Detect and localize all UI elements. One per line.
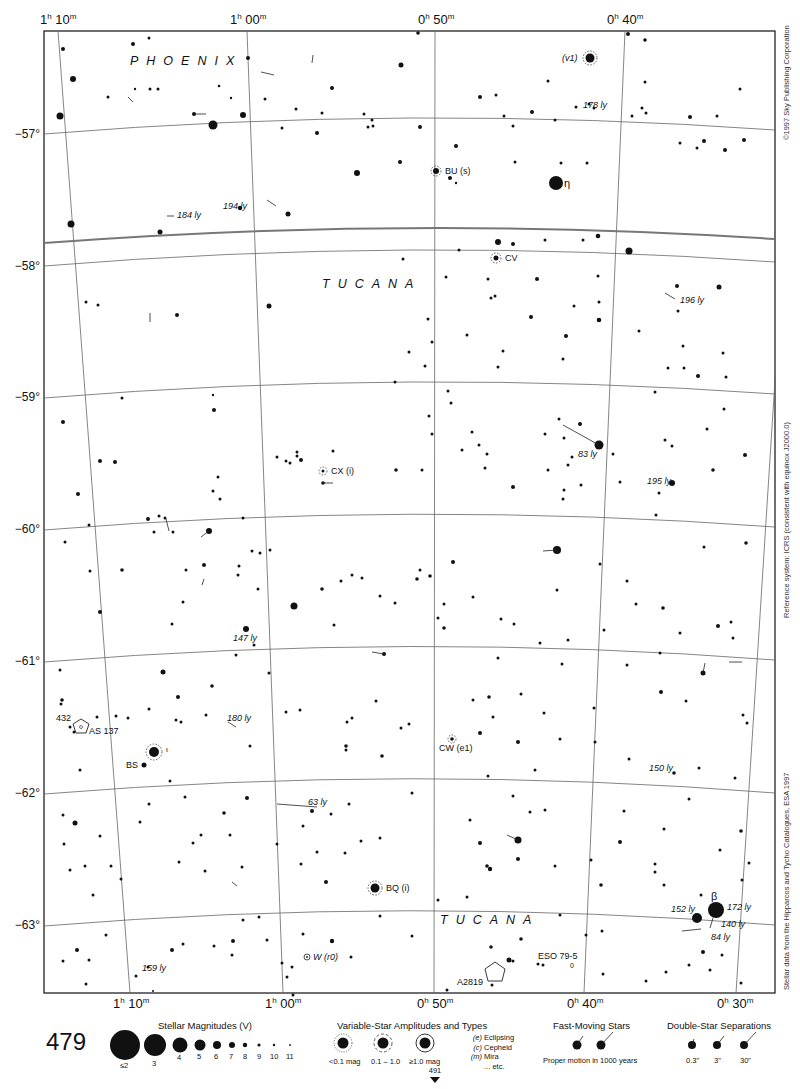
chart-frame: [44, 31, 775, 993]
ra-label-1h10m-top: 1h 10m: [40, 12, 76, 27]
ra-label-0h40m-top: 0h 40m: [607, 12, 643, 27]
dec-grid-lines: [44, 118, 775, 926]
ra-label-0h40m-bottom: 0h 40m: [567, 996, 603, 1011]
constellation-boundary: [44, 228, 775, 243]
ra-label-0h50m-top: 0h 50m: [418, 12, 454, 27]
distance-172: 172 ly: [727, 902, 751, 912]
label-cw: CW (e1): [439, 743, 473, 753]
constellation-label-phoenix: PHOENIX: [130, 54, 242, 68]
distance-84: 84 ly: [711, 932, 730, 942]
mag-label-9: 9: [257, 1052, 261, 1061]
mag-label-7: 7: [229, 1052, 233, 1061]
distance-63: 63 ly: [308, 797, 327, 807]
distance-184: 184 ly: [177, 210, 201, 220]
label-beta: β: [711, 890, 717, 902]
label-bq: BQ (i): [386, 883, 410, 893]
double-label-30: 30": [740, 1056, 751, 1065]
mag-label-6: 6: [214, 1052, 218, 1061]
dec-label-58: −58°: [0, 259, 40, 273]
variable-amplitude-symbols: [330, 1031, 440, 1055]
amplitude-label-high: ≥1.0 mag: [409, 1057, 440, 1066]
distance-195: 195 ly: [647, 476, 671, 486]
label-eta: η: [564, 177, 570, 189]
double-star-symbols: [680, 1030, 770, 1052]
amplitude-label-mid: 0.1 – 1.0: [371, 1057, 400, 1066]
next-chart-page-label[interactable]: 491: [428, 1066, 442, 1075]
label-eso-79-5: ESO 79-5: [538, 951, 578, 961]
ra-label-0h50m-bottom: 0h 50m: [417, 996, 453, 1011]
mag-label-10: 10: [270, 1052, 278, 1061]
label-a2819: A2819: [457, 977, 483, 987]
distance-140: 140 ly: [721, 919, 745, 929]
star-cx: [322, 470, 325, 473]
mag-label-2: ≤2: [120, 1061, 128, 1070]
dec-label-63: −63°: [0, 918, 40, 932]
label-eso-sub: 0: [570, 962, 574, 969]
star-chart: [0, 0, 800, 1089]
distance-196: 196 ly: [680, 295, 704, 305]
label-432: 432: [56, 713, 71, 723]
copyright-text: ©1997 Sky Publishing Corporation: [782, 25, 791, 140]
amplitude-label-low: <0.1 mag: [329, 1057, 360, 1066]
distance-159: 159 ly: [142, 963, 166, 973]
ra-label-0h30m-bottom: 0h 30m: [717, 996, 753, 1011]
double-label-3: 3": [714, 1056, 721, 1065]
constellation-label-tucana-south: TUCANA: [440, 913, 539, 927]
distance-150: 150 ly: [649, 763, 673, 773]
proper-motion-symbols: [565, 1030, 625, 1052]
mag-label-11: 11: [286, 1052, 294, 1061]
distance-178: 178 ly: [583, 100, 607, 110]
label-bu: BU (s): [445, 166, 471, 176]
star-cw: [450, 737, 454, 741]
label-bs: BS: [126, 760, 138, 770]
ra-label-1h00m-bottom: 1h 00m: [265, 996, 301, 1011]
variable-type-list: (e) Eclipsing (c) Cepheid (m) Mira ... e…: [464, 1033, 514, 1071]
star-v1: [586, 54, 595, 63]
distance-194: 194 ly: [223, 201, 247, 211]
distance-83: 83 ly: [578, 449, 597, 459]
page-number: 479: [46, 1028, 86, 1056]
mag-label-4: 4: [177, 1053, 181, 1062]
mag-label-3: 3: [152, 1059, 156, 1068]
label-w: W (r0): [313, 952, 338, 962]
variable-halos: [146, 51, 597, 895]
dec-label-59: −59°: [0, 390, 40, 404]
double-label-0.3: 0.3": [686, 1056, 699, 1065]
mag-label-8: 8: [243, 1052, 247, 1061]
dec-label-62: −62°: [0, 786, 40, 800]
dec-label-60: −60°: [0, 522, 40, 536]
next-chart-arrow-icon[interactable]: [430, 1077, 440, 1083]
data-source-text: Stellar data from the Hipparcos and Tych…: [782, 773, 791, 991]
ra-grid-lines: [58, 31, 775, 993]
ra-label-1h00m-top: 1h 00m: [230, 12, 266, 27]
galaxy-a2819-pentagon: [485, 962, 505, 981]
stars: [57, 31, 751, 996]
label-iota: ι: [166, 745, 168, 754]
distance-147: 147 ly: [233, 633, 257, 643]
mag-label-5: 5: [197, 1052, 201, 1061]
label-as137: AS 137: [89, 726, 119, 736]
label-cv: CV: [505, 253, 518, 263]
label-v1: (v1): [562, 53, 578, 63]
dec-label-57: −57°: [0, 127, 40, 141]
distance-180: 180 ly: [227, 713, 251, 723]
distance-152: 152 ly: [671, 904, 695, 914]
constellation-label-tucana: TUCANA: [322, 277, 421, 291]
label-cx: CX (i): [331, 466, 354, 476]
ra-label-1h10m-bottom: 1h 10m: [113, 996, 149, 1011]
dec-label-61: −61°: [0, 654, 40, 668]
legend-variables-title: Variable-Star Amplitudes and Types: [337, 1020, 487, 1031]
reference-system-text: Reference system: ICRS (consistent with …: [782, 422, 791, 618]
galaxy-as137-pentagon: [73, 719, 89, 733]
legend-fast-moving-caption: Proper motion in 1000 years: [543, 1056, 637, 1065]
